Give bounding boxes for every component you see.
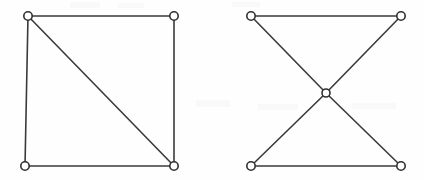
graph-diagram-svg: [0, 0, 424, 180]
vertex-node: [21, 162, 29, 170]
right-graph: [247, 12, 405, 170]
vertex-node: [170, 162, 178, 170]
left-graph: [21, 12, 178, 170]
edge-left-vertical: [25, 16, 28, 166]
edge-spoke: [251, 93, 326, 166]
edge-spoke: [326, 93, 401, 166]
vertex-node: [247, 162, 255, 170]
vertex-node: [397, 12, 405, 20]
vertex-node: [170, 12, 178, 20]
edge-spoke: [326, 16, 401, 93]
edge-diagonal: [28, 16, 174, 166]
edge-spoke: [251, 16, 326, 93]
vertex-node: [247, 12, 255, 20]
vertex-node: [24, 12, 32, 20]
left-graph-edges: [25, 16, 174, 166]
vertex-node-center: [322, 89, 330, 97]
figure-canvas: [0, 0, 424, 180]
vertex-node: [397, 162, 405, 170]
